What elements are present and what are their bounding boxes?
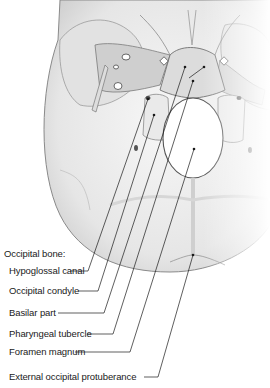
pointer-dot-hypoglossal-canal	[147, 98, 150, 101]
label-pharyngeal-tubercle: Pharyngeal tubercle	[9, 328, 92, 339]
pointer-dot-basilar-part	[184, 66, 187, 69]
pointer-dot-external-occipital-protuberance	[192, 254, 195, 257]
pointer-dot-basilar-part-2	[203, 66, 206, 69]
pointer-dot-occipital-condyle	[153, 114, 156, 117]
figure-heading: Occipital bone:	[4, 248, 65, 259]
label-occipital-condyle: Occipital condyle	[9, 285, 79, 296]
leader-line-external-occipital-protuberance	[144, 255, 193, 377]
label-hypoglossal-canal: Hypoglossal canal	[9, 265, 84, 276]
pointer-dot-foramen-magnum	[193, 148, 196, 151]
label-foramen-magnum: Foramen magnum	[9, 346, 85, 357]
label-basilar-part: Basilar part	[9, 307, 56, 318]
label-external-occipital-protuberance: External occipital protuberance	[9, 371, 136, 382]
pointer-dot-pharyngeal-tubercle	[192, 80, 195, 83]
